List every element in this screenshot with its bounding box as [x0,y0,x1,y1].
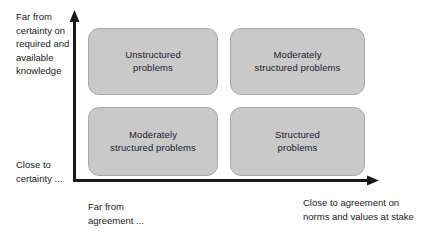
y-axis-bottom-label: Close to certainty ... [16,158,76,185]
quadrant-label: Moderately structured problems [110,129,196,154]
quadrant-label: Structured problems [275,129,320,154]
y-axis-top-label: Far from certainty on required and avail… [16,10,76,78]
quadrant-label: Unstructured problems [125,49,181,74]
quadrant-structured-problems[interactable]: Structured problems [230,107,365,176]
quadrant-label: Moderately structured problems [255,49,341,74]
x-axis-arrowhead [367,176,379,186]
quadrant-unstructured-problems[interactable]: Unstructured problems [88,28,218,95]
x-axis-right-label: Close to agreement on norms and values a… [303,196,428,223]
quadrant-moderately-structured-problems-top-right[interactable]: Moderately structured problems [230,28,365,95]
x-axis-left-label: Far from agreement ... [88,200,183,227]
quadrant-moderately-structured-problems-bottom-left[interactable]: Moderately structured problems [88,107,218,176]
diagram-canvas: Unstructured problems Moderately structu… [0,0,431,240]
